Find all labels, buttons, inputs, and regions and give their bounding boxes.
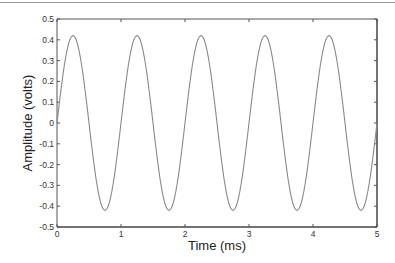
y-axis-label: Amplitude (volts) xyxy=(20,75,35,172)
x-tick-label: 5 xyxy=(375,229,380,239)
y-tick-label: 0.3 xyxy=(42,56,54,66)
series-line xyxy=(57,36,377,211)
y-tick-label: -0.2 xyxy=(39,160,54,170)
y-tick-label: 0 xyxy=(49,118,54,128)
y-tick-label: 0.4 xyxy=(42,35,54,45)
chart: 0123450.50.40.30.20.10-0.1-0.2-0.3-0.4-0… xyxy=(0,0,395,263)
y-tick-label: 0.5 xyxy=(42,14,54,24)
y-tick-label: -0.4 xyxy=(39,201,54,211)
y-tick-label: -0.1 xyxy=(39,139,54,149)
data-series xyxy=(57,36,377,211)
y-tick-label: -0.3 xyxy=(39,180,54,190)
y-tick-label: 0.2 xyxy=(42,76,54,86)
y-tick-label: 0.1 xyxy=(42,97,54,107)
y-tick-label: -0.5 xyxy=(39,222,54,232)
x-tick-label: 2 xyxy=(183,229,188,239)
x-tick-label: 1 xyxy=(119,229,124,239)
x-tick-label: 4 xyxy=(311,229,316,239)
x-axis-label: Time (ms) xyxy=(188,238,246,253)
x-tick-label: 0 xyxy=(55,229,60,239)
x-tick-label: 3 xyxy=(247,229,252,239)
axis-ticks: 0123450.50.40.30.20.10-0.1-0.2-0.3-0.4-0… xyxy=(39,14,379,239)
